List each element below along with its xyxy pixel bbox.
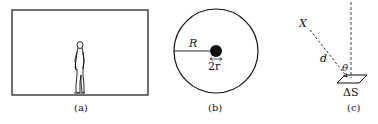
figure-canvas: (a) R 2r (b) X d θ ΔS (c)	[0, 0, 378, 124]
panel-a: (a)	[12, 10, 148, 113]
standing-person-icon	[74, 42, 85, 94]
angle-label: θ	[342, 62, 348, 73]
panel-b: R 2r (b)	[174, 9, 258, 113]
area-element	[337, 75, 367, 83]
inner-sphere	[210, 45, 222, 57]
area-label: ΔS	[343, 86, 358, 99]
caption-a: (a)	[74, 102, 88, 113]
radius-label: R	[188, 37, 197, 50]
distance-label: d	[320, 52, 327, 65]
caption-c: (c)	[347, 102, 361, 113]
panel-c: X d θ ΔS (c)	[298, 2, 367, 113]
caption-b: (b)	[208, 102, 222, 113]
point-label: X	[298, 17, 308, 30]
diameter-label: 2r	[208, 60, 221, 73]
